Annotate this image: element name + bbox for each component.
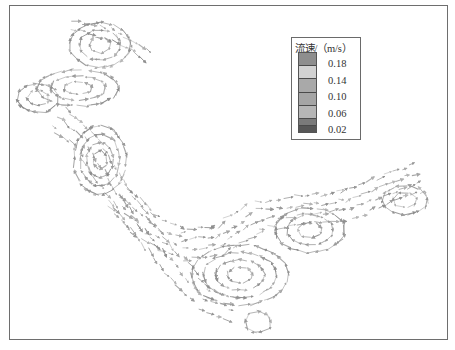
velocity-legend: 流速/（m/s） 0.18 0.14 0.10 0.06 0.02 xyxy=(291,37,361,140)
legend-swatch xyxy=(299,126,316,132)
legend-swatch xyxy=(299,53,316,66)
legend-tick: 0.02 xyxy=(328,124,346,135)
velocity-vector-field xyxy=(0,0,455,350)
legend-swatch xyxy=(299,106,316,119)
legend-color-scale xyxy=(298,52,317,133)
legend-swatch xyxy=(299,79,316,92)
legend-tick: 0.18 xyxy=(328,58,346,69)
legend-swatch xyxy=(299,66,316,79)
legend-swatch xyxy=(299,119,316,126)
legend-tick: 0.14 xyxy=(328,75,346,86)
flow-arrows xyxy=(16,21,428,333)
legend-swatch xyxy=(299,93,316,106)
legend-tick: 0.10 xyxy=(328,91,346,102)
legend-tick: 0.06 xyxy=(328,108,346,119)
